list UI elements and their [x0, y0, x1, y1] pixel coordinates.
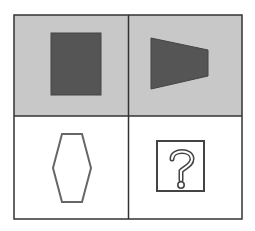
- puzzle-grid: [0, 0, 255, 231]
- question-mark-box[interactable]: [157, 141, 204, 191]
- question-mark-dot: [178, 182, 184, 188]
- filled-rectangle-shape: [51, 33, 101, 95]
